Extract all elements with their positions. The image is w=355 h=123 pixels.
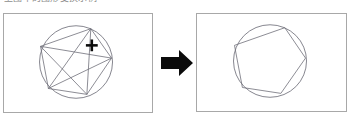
circle-outline	[234, 25, 307, 98]
cursor-layer	[4, 14, 152, 112]
panel-before	[3, 13, 153, 113]
pentagon-in-circle-figure	[197, 14, 346, 111]
arrow-right-icon	[160, 49, 194, 77]
diagram-stage: 上图中的图形变换示例	[0, 0, 355, 123]
figure-caption: 上图中的图形变换示例	[4, 0, 204, 4]
panel-after	[196, 13, 347, 112]
arrow-right-shape	[161, 50, 193, 76]
transform-arrow	[160, 49, 194, 77]
pentagon-outline	[234, 28, 305, 94]
